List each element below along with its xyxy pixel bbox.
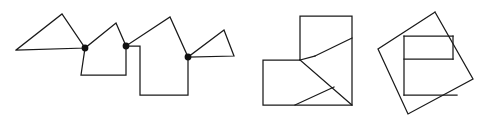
lshape-cut-a [300, 60, 352, 105]
lshape-outline [263, 16, 352, 105]
panel-tilted-square [378, 12, 473, 114]
panel-chain [16, 14, 234, 95]
figure-canvas [0, 0, 484, 121]
tilted-square-outline [378, 12, 473, 114]
lshape-cut-d [295, 87, 334, 105]
lshape-cut-b [315, 38, 352, 56]
vertex-dot-joint-1 [82, 45, 89, 52]
vertex-dot-joint-3 [185, 54, 192, 61]
geometry-svg [0, 0, 484, 121]
chain-pentagon-large [126, 17, 188, 95]
panel-lshape [263, 16, 352, 105]
chain-triangle [188, 30, 234, 57]
chain-quadrilateral [16, 14, 85, 50]
lshape-cut-c [300, 56, 315, 60]
vertex-dot-joint-2 [123, 43, 130, 50]
